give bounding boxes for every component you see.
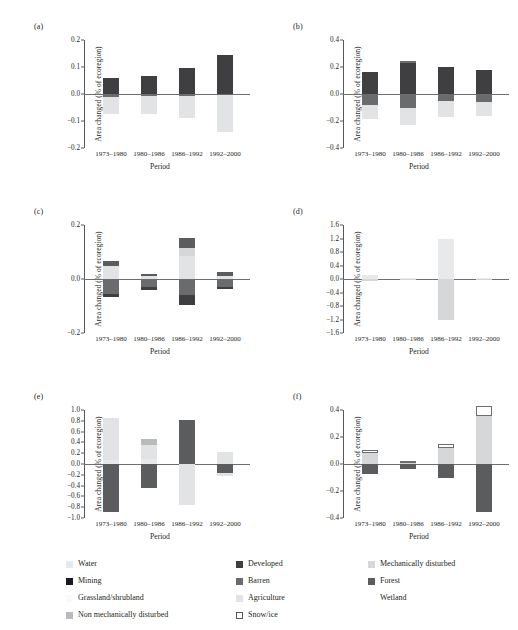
legend-item: Agriculture: [236, 590, 285, 606]
bar-segment: [141, 279, 157, 287]
x-tick-label: 1992–2000: [209, 520, 241, 528]
x-tick-label: 1973–1980: [354, 520, 386, 528]
bar-group: [343, 40, 495, 148]
x-tick-label: 1992–2000: [209, 335, 241, 343]
legend-label: Mining: [78, 577, 102, 585]
figure-landcover-change: WaterDevelopedMechanically disturbedMini…: [0, 0, 518, 630]
x-tick-label: 1992–2000: [468, 335, 500, 343]
bar-segment: [179, 68, 195, 94]
bar-segment: [103, 294, 119, 297]
bar-segment: [141, 274, 157, 277]
x-tick-labels: 1973–19801980–19861986–19921992–2000: [343, 150, 509, 162]
plot-area: Area changed (% of ecoregion)0.20.0−0.2: [84, 225, 236, 333]
bar-segment: [217, 279, 233, 287]
legend-item: Wetland: [368, 590, 406, 606]
legend-swatch-snow-ice: [236, 612, 243, 619]
bar-segment: [438, 464, 454, 478]
x-tick-label: 1986–1992: [171, 335, 203, 343]
bar-segment: [103, 78, 119, 94]
bar-segment: [438, 448, 454, 464]
bar-segment: [400, 279, 416, 280]
bar-segment: [141, 76, 157, 94]
bar-segment: [179, 279, 195, 295]
legend-label: Non mechanically disturbed: [78, 611, 168, 619]
bar-stack: [179, 40, 195, 148]
bar-group: [84, 410, 236, 518]
x-tick-labels: 1973–19801980–19861986–19921992–2000: [84, 150, 250, 162]
legend-swatch-barren: [236, 578, 243, 585]
legend-swatch-agriculture: [236, 595, 243, 602]
bar-stack: [217, 40, 233, 148]
bar-segment: [476, 94, 492, 102]
x-tick-label: 1973–1980: [354, 150, 386, 158]
bar-segment: [438, 279, 454, 320]
bar-stack: [476, 40, 492, 148]
legend-label: Grassland/shrubland: [78, 594, 144, 602]
panel-label: (b): [293, 22, 303, 31]
bar-stack: [141, 225, 157, 333]
bar-group: [84, 40, 236, 148]
plot-area: Area changed (% of ecoregion)0.40.20.0−0…: [343, 40, 495, 148]
bar-segment: [476, 279, 492, 280]
x-tick-label: 1973–1980: [95, 335, 127, 343]
x-tick-labels: 1973–19801980–19861986–19921992–2000: [84, 520, 250, 532]
bar-segment: [217, 95, 233, 132]
bar-stack: [141, 410, 157, 518]
bar-stack: [217, 225, 233, 333]
x-axis-label: Period: [343, 347, 495, 356]
x-axis-label: Period: [343, 162, 495, 171]
bar-segment: [103, 279, 119, 294]
panel-b: (b)Area changed (% of ecoregion)0.40.20.…: [259, 14, 518, 199]
legend-swatch-mining: [66, 578, 73, 585]
bar-segment: [362, 279, 378, 281]
bar-segment: [362, 450, 378, 453]
bar-stack: [438, 40, 454, 148]
x-tick-label: 1986–1992: [171, 520, 203, 528]
bar-segment: [217, 473, 233, 476]
bar-segment: [179, 256, 195, 279]
bar-segment: [400, 464, 416, 469]
bar-group: [343, 410, 495, 518]
legend-label: Barren: [248, 577, 270, 585]
bar-segment: [400, 61, 416, 63]
x-tick-label: 1980–1986: [392, 335, 424, 343]
bar-segment: [476, 102, 492, 116]
legend-label: Snow/ice: [248, 611, 278, 619]
bar-stack: [362, 40, 378, 148]
bar-segment: [400, 108, 416, 126]
bar-group: [343, 225, 495, 333]
panel-e: (e)Area changed (% of ecoregion)1.00.80.…: [0, 384, 259, 569]
panel-f: (f)Area changed (% of ecoregion)0.40.20.…: [259, 384, 518, 569]
bar-segment: [438, 239, 454, 279]
bar-segment: [141, 439, 157, 445]
bar-segment: [362, 105, 378, 119]
plot-area: Area changed (% of ecoregion)1.00.80.60.…: [84, 410, 236, 518]
bar-stack: [476, 225, 492, 333]
panel-c: (c)Area changed (% of ecoregion)0.20.0−0…: [0, 199, 259, 384]
bar-segment: [362, 453, 378, 464]
plot-area: Area changed (% of ecoregion)1.61.20.80.…: [343, 225, 495, 333]
bar-segment: [400, 63, 416, 94]
bar-segment: [141, 96, 157, 114]
bar-stack: [438, 410, 454, 518]
bar-stack: [438, 225, 454, 333]
bar-stack: [103, 410, 119, 518]
bar-segment: [179, 420, 195, 464]
bar-segment: [103, 266, 119, 279]
x-axis-label: Period: [343, 532, 495, 541]
legend-label: Wetland: [380, 594, 406, 602]
legend-item: Barren: [236, 573, 270, 589]
plot-area: Area changed (% of ecoregion)0.40.20.0−0…: [343, 410, 495, 518]
bar-segment: [179, 238, 195, 249]
bar-segment: [362, 72, 378, 94]
bar-segment: [179, 464, 195, 505]
x-tick-label: 1986–1992: [171, 150, 203, 158]
x-tick-label: 1980–1986: [133, 335, 165, 343]
x-tick-label: 1992–2000: [209, 150, 241, 158]
bar-segment: [179, 96, 195, 118]
legend-swatch-grassland-shrubland: [66, 595, 73, 602]
bar-segment: [217, 452, 233, 464]
bar-segment: [476, 416, 492, 464]
bar-stack: [400, 40, 416, 148]
x-tick-label: 1973–1980: [354, 335, 386, 343]
